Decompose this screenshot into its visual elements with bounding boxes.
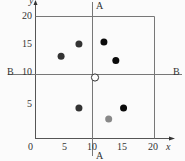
origin-label: 0 [28, 141, 33, 152]
line-b-label-right: B [173, 66, 180, 77]
x-tick-10: 10 [87, 141, 97, 152]
y-tick-20: 20 [22, 10, 32, 21]
x-tick-15: 15 [117, 141, 127, 152]
data-point [75, 40, 82, 47]
line-a-label-top: A [96, 0, 104, 11]
data-point [105, 115, 112, 122]
y-tick-15: 15 [22, 38, 32, 49]
line-a-label-bottom: A [96, 150, 104, 161]
data-point [58, 53, 65, 60]
data-point [100, 39, 107, 46]
center-open-point [91, 74, 98, 81]
y-axis-arrow-icon [34, 0, 38, 5]
coordinate-diagram: y x 0 A A B B 5 10 15 20 5 10 15 20 [0, 0, 185, 161]
y-tick-10: 10 [22, 66, 32, 77]
x-tick-20: 20 [148, 141, 158, 152]
data-point [75, 105, 82, 112]
line-b-label-left: B [7, 66, 14, 77]
data-point [112, 57, 119, 64]
x-tick-5: 5 [62, 141, 67, 152]
y-axis-label: y [28, 0, 34, 6]
y-tick-5: 5 [27, 98, 32, 109]
x-axis-label: x [165, 141, 171, 152]
x-axis-arrow-icon [169, 137, 175, 141]
data-point [120, 105, 127, 112]
